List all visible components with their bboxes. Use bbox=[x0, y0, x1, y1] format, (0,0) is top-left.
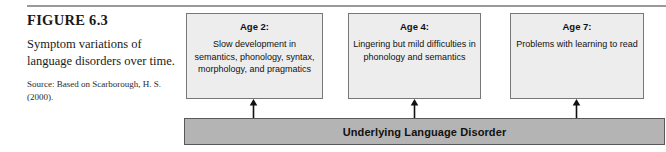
age-box-4-body: Lingering but mild difficulties in phono… bbox=[353, 38, 476, 63]
age-box-2: Age 2: Slow development in semantics, ph… bbox=[186, 13, 323, 99]
age-box-7: Age 7: Problems with learning to read bbox=[510, 13, 644, 99]
up-arrow-icon-age-2 bbox=[249, 99, 258, 119]
underlying-disorder-bar-label: Underlying Language Disorder bbox=[343, 126, 507, 138]
figure-panel: FIGURE 6.3 Symptom variations of languag… bbox=[0, 0, 666, 152]
underlying-disorder-bar: Underlying Language Disorder bbox=[184, 118, 665, 145]
age-box-4: Age 4: Lingering but mild difficulties i… bbox=[348, 13, 481, 99]
age-box-2-body: Slow development in semantics, phonology… bbox=[191, 38, 318, 75]
diagram-canvas: Age 2: Slow development in semantics, ph… bbox=[0, 0, 666, 152]
age-box-2-title: Age 2: bbox=[191, 21, 318, 32]
age-box-7-body: Problems with learning to read bbox=[515, 38, 639, 50]
age-box-7-title: Age 7: bbox=[515, 21, 639, 32]
up-arrow-icon-age-7 bbox=[572, 99, 581, 119]
up-arrow-icon-age-4 bbox=[410, 99, 419, 119]
age-box-4-title: Age 4: bbox=[353, 21, 476, 32]
